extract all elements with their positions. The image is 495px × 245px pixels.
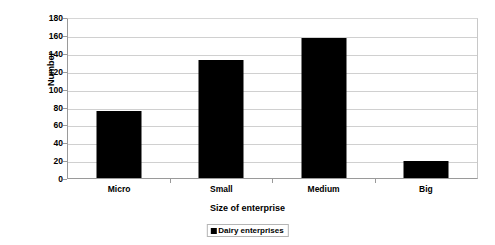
y-tick-label: 20	[23, 157, 63, 166]
y-tick-label: 0	[23, 175, 63, 184]
y-axis-ticks: 180 160 140 120 100 80 60 40 20 0	[18, 18, 63, 179]
bar-slot	[273, 18, 375, 178]
chart-legend: Dairy enterprises	[206, 224, 288, 237]
y-tick-label: 60	[23, 121, 63, 130]
bar-slot	[68, 18, 170, 178]
legend-label-dairy-enterprises: Dairy enterprises	[218, 226, 283, 235]
x-axis-labels: Micro Small Medium Big	[68, 183, 477, 196]
bar-slot	[170, 18, 272, 178]
bar-medium[interactable]	[301, 38, 346, 178]
bar-chart: Number 180 160 140 120 100 80 60 40 20 0	[0, 0, 495, 245]
y-tick-label: 180	[23, 14, 63, 23]
x-label-small: Small	[170, 183, 272, 195]
bars-layer	[68, 18, 477, 178]
y-tick-label: 80	[23, 104, 63, 113]
y-tick-label: 100	[23, 86, 63, 95]
x-label-medium: Medium	[273, 183, 375, 195]
x-label-micro: Micro	[68, 183, 170, 195]
y-tick-label: 40	[23, 139, 63, 148]
bar-micro[interactable]	[97, 111, 142, 178]
square-marker-icon	[210, 228, 216, 234]
y-tick-label: 160	[23, 32, 63, 41]
y-tick-label: 140	[23, 50, 63, 59]
bar-small[interactable]	[199, 60, 244, 178]
y-tick-mark	[63, 179, 67, 180]
x-label-big: Big	[375, 183, 477, 195]
bar-slot	[375, 18, 477, 178]
bar-big[interactable]	[403, 161, 448, 178]
x-axis-title: Size of enterprise	[0, 202, 495, 214]
y-tick-label: 120	[23, 68, 63, 77]
